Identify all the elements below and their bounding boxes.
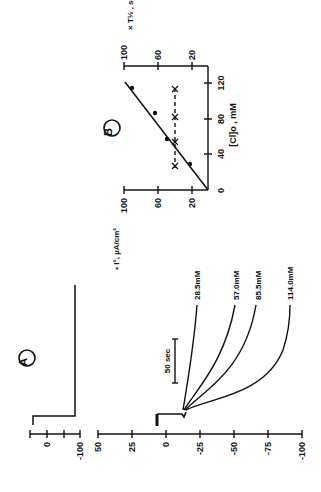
curve-label-28-5mM: 28.5mM xyxy=(193,270,202,300)
figure: A B 0 -100 50 25 0 -25 -50 -75 -100 50 s… xyxy=(0,0,321,492)
cl-tick-40: 40 xyxy=(216,149,226,159)
i-zero-axis-label: • I°, µA/cm² xyxy=(112,228,121,270)
panel-a xyxy=(19,285,302,438)
t-half-axis-label: × T½ , sec xyxy=(126,0,135,30)
current-trace-base xyxy=(157,412,186,417)
current-tick-0: 0 xyxy=(161,442,171,447)
t-half-tick-100: 100 xyxy=(119,45,129,60)
cl-tick-0: 0 xyxy=(216,188,226,193)
cl-axis-label: [Cl]o , mM xyxy=(228,103,238,147)
current-tick-50: 50 xyxy=(93,442,103,452)
t-half-tick-20: 20 xyxy=(187,50,197,60)
voltage-tick-minus100: -100 xyxy=(75,442,85,460)
current-tick-minus75: -75 xyxy=(263,442,273,455)
panel-a-label: A xyxy=(17,358,29,366)
t-half-tick-60: 60 xyxy=(153,50,163,60)
curve-label-85-5mM: 85.5mM xyxy=(254,270,263,300)
linear-fit-line xyxy=(125,82,208,190)
voltage-trace xyxy=(33,285,75,425)
panel-b xyxy=(104,62,212,194)
i-zero-points xyxy=(130,86,192,166)
curve-114-0mM xyxy=(186,305,290,410)
scale-bar xyxy=(172,339,178,383)
cl-tick-80: 80 xyxy=(216,114,226,124)
curve-label-114-0mM: 114.0mM xyxy=(286,266,295,300)
voltage-tick-0: 0 xyxy=(42,442,52,447)
current-tick-minus25: -25 xyxy=(195,442,205,455)
curve-label-57-0mM: 57.0mM xyxy=(232,270,241,300)
scale-bar-label: 50 sec xyxy=(163,348,172,373)
panel-b-label: B xyxy=(102,128,114,136)
cl-tick-120: 120 xyxy=(216,75,226,90)
current-tick-25: 25 xyxy=(127,442,137,452)
i-zero-tick-20: 20 xyxy=(187,198,197,208)
i-zero-tick-100: 100 xyxy=(119,198,129,213)
current-tick-minus50: -50 xyxy=(229,442,239,455)
current-tick-minus100: -100 xyxy=(297,442,307,460)
i-zero-tick-60: 60 xyxy=(153,198,163,208)
